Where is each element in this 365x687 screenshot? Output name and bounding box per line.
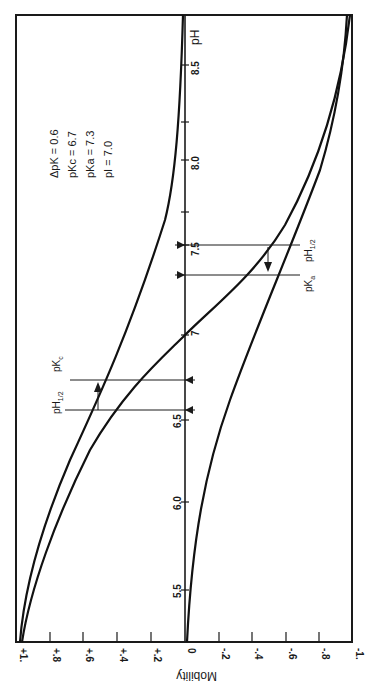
arrow-icon [177,241,185,249]
svg-text:pH1/2: pH1/2 [51,391,64,414]
y-tick-label: -1. [354,648,365,660]
y-tick-label: -.8 [320,648,331,660]
y-tick-label: +1. [18,648,29,662]
legend-pkc: pKc = 6.7 [66,131,78,178]
legend-pka: pKa = 7.3 [84,131,96,178]
x-tick-label: 6.5 [172,414,183,428]
y-axis-title: Mobility [176,669,217,683]
legend-pi: pI = 7.0 [102,141,114,178]
x-tick-label: 6.0 [172,496,183,510]
arrowheads [94,241,272,414]
legend-dpk: ΔpK = 0.6 [48,129,60,178]
mobility-tick-labels: +1. +.8 +.6 +.4 +.2 0 -.2 -.4 -.6 -.8 -1… [18,648,365,663]
marker-lines [65,245,300,410]
x-tick-label: 5.5 [172,584,183,598]
annotation-right: pKa pH1/2 [303,239,316,292]
y-tick-label: -.6 [287,648,298,660]
annotation-left: pH1/2 pKc [51,356,64,414]
cationic-curve [20,15,183,642]
y-tick-label: +.8 [51,648,62,663]
legend: ΔpK = 0.6 pKc = 6.7 pKa = 7.3 pI = 7.0 [48,129,114,178]
plot-frame [16,15,352,642]
x-tick-label: 8.0 [190,156,201,170]
x-tick-label: 7.5 [190,242,201,256]
y-tick-label: 0 [186,648,197,654]
y-tick-label: +.2 [152,648,163,663]
y-tick-label: +.4 [118,648,129,663]
y-tick-label: +.6 [84,648,95,663]
arrow-down-icon [264,262,272,272]
x-tick-label: 7 [190,330,201,336]
svg-text:pKa: pKa [303,276,316,292]
y-tick-label: -.2 [220,648,231,660]
net-mobility-curve [22,15,350,642]
arrow-icon [177,271,185,279]
arrow-up-icon [94,382,102,392]
svg-text:pKc: pKc [51,356,64,372]
x-axis-title: pH [188,30,202,45]
arrow-icon [185,406,193,414]
mobility-vs-ph-chart: +1. +.8 +.6 +.4 +.2 0 -.2 -.4 -.6 -.8 -1… [0,0,365,687]
anionic-curve [187,15,347,642]
y-tick-label: -.4 [253,648,264,660]
svg-text:pH1/2: pH1/2 [303,239,316,262]
arrow-icon [185,376,193,384]
x-tick-label: 8.5 [190,61,201,75]
